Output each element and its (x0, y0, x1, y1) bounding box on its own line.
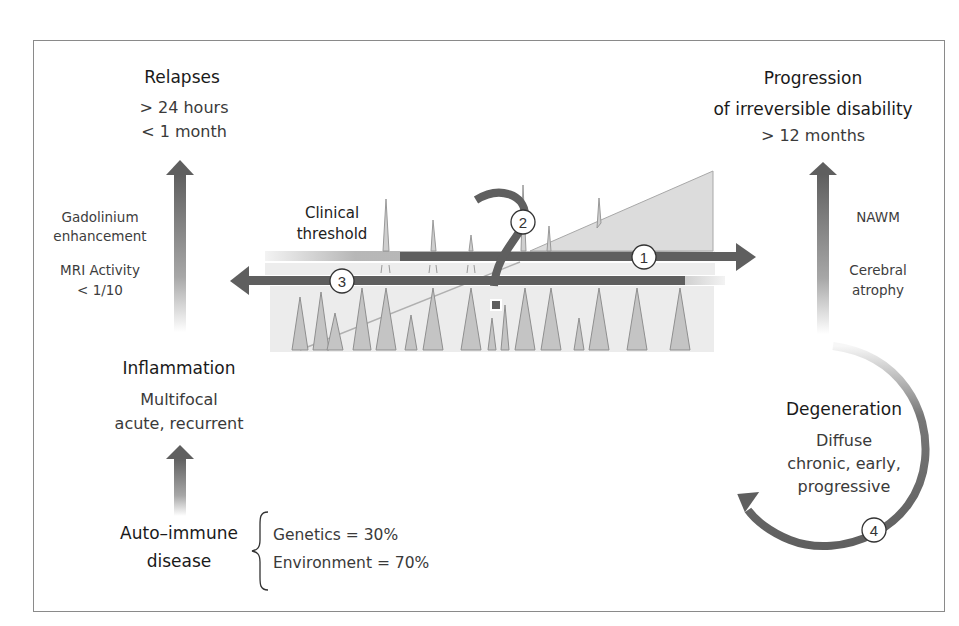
marker-3: 3 (330, 269, 354, 293)
brace (252, 512, 268, 590)
progression-arrow (809, 162, 837, 334)
cerebral-atrophy-label-2: atrophy (852, 281, 904, 300)
clinical-threshold-label-1: Clinical (305, 204, 359, 222)
environment-factor: Environment = 70% (273, 552, 429, 574)
degeneration-desc-3: progressive (798, 476, 891, 497)
gadolinium-label-2: enhancement (53, 227, 146, 246)
svg-text:3: 3 (338, 273, 346, 290)
cerebral-atrophy-label-1: Cerebral (849, 261, 906, 280)
activity-panel (265, 171, 725, 352)
svg-text:2: 2 (519, 214, 527, 231)
degeneration-title: Degeneration (786, 399, 902, 419)
gadolinium-label-1: Gadolinium (61, 208, 138, 227)
clinical-threshold-label-2: threshold (297, 225, 368, 243)
marker-1: 1 (632, 245, 656, 269)
progression-duration: > 12 months (761, 125, 865, 146)
inflammation-desc-1: Multifocal (140, 389, 218, 410)
autoimmune-title-1: Auto–immune (120, 523, 238, 543)
mri-activity-label: MRI Activity (60, 261, 140, 280)
nawm-label: NAWM (856, 208, 900, 227)
marker-2: 2 (511, 210, 535, 234)
relapses-title: Relapses (144, 67, 220, 87)
progression-title: Progression (764, 68, 862, 88)
autoimmune-arrow (166, 445, 194, 516)
relapses-duration-min: > 24 hours (140, 97, 229, 118)
degeneration-desc-1: Diffuse (816, 430, 872, 451)
marker-4: 4 (862, 518, 886, 542)
autoimmune-title-2: disease (147, 551, 212, 571)
degeneration-desc-2: chronic, early, (787, 453, 901, 474)
svg-text:4: 4 (870, 522, 878, 539)
genetics-factor: Genetics = 30% (273, 524, 398, 546)
relapses-duration-max: < 1 month (141, 121, 227, 142)
disability-triangle (530, 171, 713, 251)
progression-subtitle: of irreversible disability (713, 99, 912, 119)
inflammation-desc-2: acute, recurrent (115, 413, 244, 434)
svg-text:1: 1 (640, 249, 648, 266)
inflammation-title: Inflammation (122, 358, 235, 378)
relapse-arrow (166, 160, 194, 332)
mri-activity-value: < 1/10 (77, 281, 123, 300)
